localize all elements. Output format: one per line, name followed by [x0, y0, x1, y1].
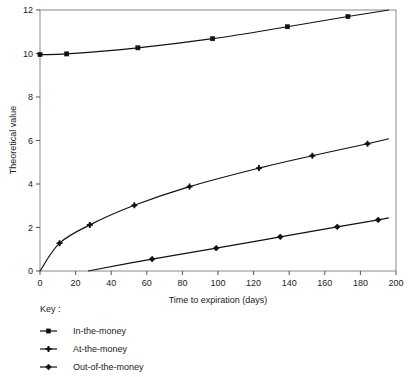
- data-point-marker: [211, 37, 215, 41]
- theoretical-value-line-chart: 020406080100120140160180200 024681012 Ti…: [0, 0, 416, 377]
- x-tick-label: 0: [37, 278, 42, 288]
- x-tick-label: 160: [317, 278, 332, 288]
- x-tick-label: 120: [246, 278, 261, 288]
- data-point-marker: [346, 14, 350, 18]
- data-point-marker: [65, 52, 69, 56]
- x-tick-label: 140: [282, 278, 297, 288]
- legend-marker: [46, 329, 50, 333]
- chart-background: [0, 0, 416, 377]
- y-tick-label: 6: [28, 136, 33, 146]
- data-point-marker: [285, 25, 289, 29]
- y-tick-label: 12: [23, 5, 33, 15]
- legend-label: In-the-money: [73, 326, 127, 336]
- x-tick-label: 60: [142, 278, 152, 288]
- x-tick-label: 180: [353, 278, 368, 288]
- x-tick-label: 80: [177, 278, 187, 288]
- x-axis-title: Time to expiration (days): [169, 295, 268, 305]
- x-tick-label: 20: [71, 278, 81, 288]
- x-tick-label: 200: [388, 278, 403, 288]
- x-tick-label: 40: [106, 278, 116, 288]
- legend-title: Key :: [40, 304, 61, 314]
- y-tick-label: 0: [28, 266, 33, 276]
- legend-label: At-the-money: [73, 344, 128, 354]
- y-tick-label: 10: [23, 49, 33, 59]
- y-tick-label: 2: [28, 223, 33, 233]
- y-tick-label: 4: [28, 179, 33, 189]
- data-point-marker: [136, 46, 140, 50]
- y-axis-title: Theoretical value: [8, 106, 18, 175]
- data-point-marker: [38, 52, 42, 56]
- x-tick-label: 100: [210, 278, 225, 288]
- chart-figure: 020406080100120140160180200 024681012 Ti…: [0, 0, 416, 377]
- y-tick-label: 8: [28, 92, 33, 102]
- legend-label: Out-of-the-money: [73, 362, 144, 372]
